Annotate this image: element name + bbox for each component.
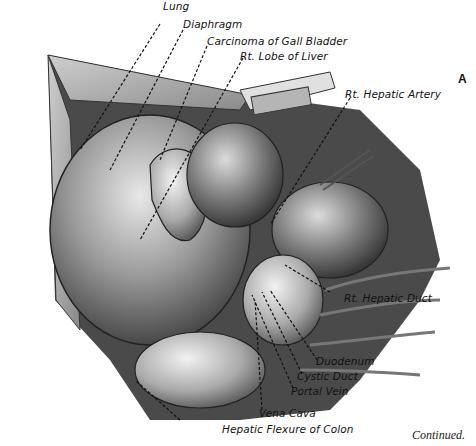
left-lobe-liver	[187, 123, 283, 227]
label-hepatic-flexure-colon: Hepatic Flexure of Colon	[222, 423, 354, 435]
label-rt-hepatic-artery: Rt. Hepatic Artery	[345, 88, 441, 100]
label-vena-cava: Vena Cava	[259, 407, 316, 419]
label-duodenum: Duodenum	[316, 355, 375, 367]
surgical-illustration	[0, 0, 476, 446]
label-cystic-duct: Cystic Duct	[297, 370, 358, 382]
panel-letter: A	[458, 72, 467, 86]
label-diaphragm: Diaphragm	[183, 18, 242, 30]
continued-note: Continued.	[412, 428, 465, 443]
label-carcinoma-gallbladder: Carcinoma of Gall Bladder	[207, 35, 347, 47]
label-rt-hepatic-duct: Rt. Hepatic Duct	[344, 292, 432, 304]
label-lung: Lung	[163, 0, 189, 12]
label-rt-lobe-liver: Rt. Lobe of Liver	[240, 50, 328, 62]
colon	[135, 332, 265, 408]
label-portal-vein: Portal Vein	[291, 385, 349, 397]
